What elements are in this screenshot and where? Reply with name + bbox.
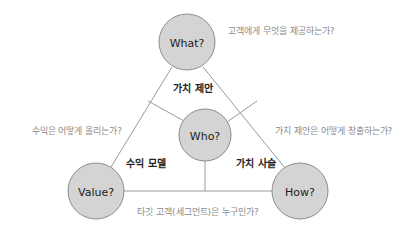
annotation-how-question: 가치 제안은 어떻게 창출하는가? [275,125,393,136]
edge-label-value-chain: 가치 사슬 [236,157,275,169]
node-how[interactable]: How? [272,163,328,219]
node-how-label: How? [285,186,315,199]
diagram-canvas: What? Who? Value? How? 가치 제안 수익 모델 가치 사슬… [0,0,409,231]
edge-label-value-proposition: 가치 제안 [173,82,213,94]
node-value[interactable]: Value? [68,163,124,219]
spoke-who-to-right-edge [227,101,257,122]
annotation-who-question: 타깃 고객(세그먼트)은 누구인가? [137,207,259,217]
annotation-what-question: 고객에게 무엇을 제공하는가? [228,26,335,36]
node-who-label: Who? [190,130,221,143]
node-value-label: Value? [78,186,114,199]
node-what[interactable]: What? [159,14,215,70]
edge-what-value [111,67,172,167]
edge-label-revenue-model: 수익 모델 [126,158,165,169]
node-what-label: What? [170,37,205,50]
spoke-who-to-left-edge [148,101,184,121]
annotation-value-question: 수익은 어떻게 올리는가? [32,125,123,136]
node-who[interactable]: Who? [179,109,231,161]
business-model-diagram: What? Who? Value? How? 가치 제안 수익 모델 가치 사슬… [0,0,409,231]
